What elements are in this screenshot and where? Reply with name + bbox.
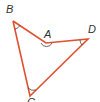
geometry-diagram: B A D C xyxy=(0,0,100,102)
vertex-label-d: D xyxy=(88,23,96,35)
vertex-label-c: C xyxy=(27,96,35,102)
vertex-label-b: B xyxy=(6,3,13,15)
angle-arc-b xyxy=(15,26,20,30)
vertex-label-a: A xyxy=(43,28,51,40)
angle-arc-d xyxy=(80,40,82,45)
